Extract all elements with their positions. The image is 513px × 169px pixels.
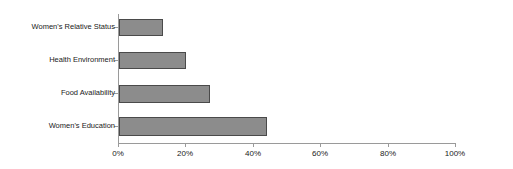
- x-axis-tick-label: 60%: [312, 149, 328, 159]
- x-axis-tick: [388, 143, 389, 147]
- bar: [119, 19, 163, 36]
- x-axis-tick-label: 40%: [245, 149, 261, 159]
- x-axis-tick: [118, 143, 119, 147]
- bar-chart: 0% 20% 40% 60% 80% 100% Women's Relative…: [0, 0, 513, 169]
- bar: [119, 117, 267, 136]
- category-label: Women's Education: [49, 121, 115, 131]
- x-axis-tick-label: 0%: [112, 149, 124, 159]
- category-label: Women's Relative Status: [32, 22, 115, 32]
- x-axis-tick: [253, 143, 254, 147]
- x-axis-tick-label: 20%: [177, 149, 193, 159]
- bar: [119, 52, 186, 69]
- x-axis-tick: [185, 143, 186, 147]
- x-axis-line: [118, 143, 456, 144]
- category-label: Food Availability: [61, 88, 115, 98]
- category-label: Health Environment: [49, 55, 115, 65]
- x-axis-tick-label: 80%: [380, 149, 396, 159]
- bar: [119, 85, 210, 103]
- x-axis-tick-label: 100%: [445, 149, 465, 159]
- x-axis-tick: [455, 143, 456, 147]
- x-axis-tick: [320, 143, 321, 147]
